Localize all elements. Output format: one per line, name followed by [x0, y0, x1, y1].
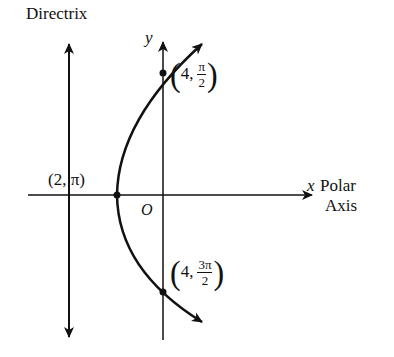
lower-intercept-point: [160, 289, 167, 296]
lower-intercept-label: ( 4, 3π 2 ): [170, 256, 224, 288]
directrix-label: Directrix: [26, 4, 87, 24]
upper-theta-fraction: π 2: [197, 60, 206, 89]
lower-r-value: 4: [181, 262, 190, 282]
open-paren: (: [170, 255, 181, 289]
close-paren: ): [213, 255, 224, 289]
origin-label: O: [141, 201, 153, 219]
open-paren: (: [170, 57, 181, 91]
x-axis-label: x: [307, 176, 315, 196]
upper-r-value: 4: [181, 64, 190, 84]
lower-theta-num: 3π: [197, 258, 212, 273]
lower-theta-den: 2: [202, 273, 209, 287]
vertex-label: (2, π): [48, 170, 85, 190]
comma: ,: [189, 64, 193, 84]
comma: ,: [189, 262, 193, 282]
vertex-point: [114, 192, 121, 199]
lower-theta-fraction: 3π 2: [197, 258, 212, 287]
close-paren: ): [207, 57, 218, 91]
upper-intercept-point: [160, 70, 167, 77]
y-axis-label: y: [145, 28, 153, 48]
upper-intercept-label: ( 4, π 2 ): [170, 58, 218, 90]
polar-axis-label-line1: Polar: [320, 176, 356, 196]
upper-theta-num: π: [197, 60, 206, 75]
upper-theta-den: 2: [198, 75, 205, 89]
polar-axis-label-line2: Axis: [325, 196, 357, 216]
